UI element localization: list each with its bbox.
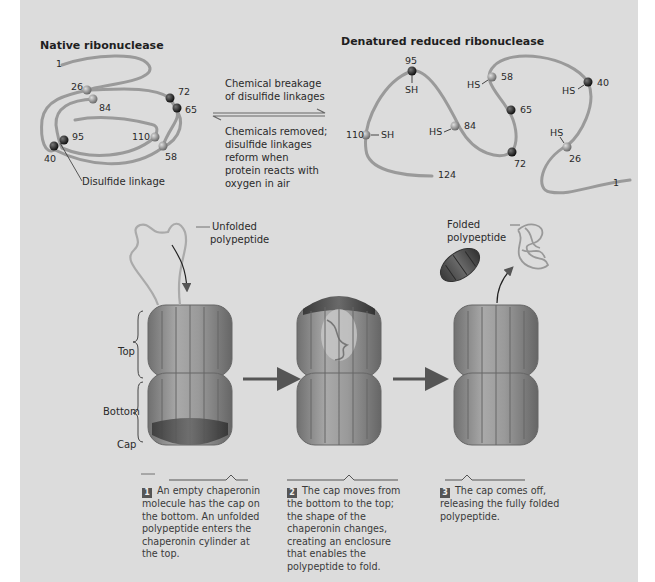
chaperonin-open: [454, 305, 538, 445]
step-text: The cap moves from the bottom to the top…: [287, 485, 400, 572]
reverse-reaction-label: Chemicals removed;: [225, 126, 327, 139]
step-caption-2: 2The cap moves from the bottom to the to…: [287, 485, 409, 574]
denatured-strand: [366, 56, 630, 193]
residue-label: 40: [44, 153, 56, 166]
sh-group-label: HS: [550, 127, 563, 140]
residue-label: 58: [165, 151, 177, 164]
step-text: An empty chaperonin molecule has the cap…: [142, 485, 260, 559]
unfolded-polypeptide-label-2: polypeptide: [210, 234, 269, 247]
forward-reaction-label-1: Chemical breakage: [225, 78, 321, 91]
unfolded-polypeptide-label-1: Unfolded: [212, 221, 257, 234]
residue-label: 40: [597, 77, 609, 90]
residue-label: 95: [405, 55, 417, 68]
exit-arrow: [497, 268, 512, 303]
chaperonin-empty: [148, 305, 232, 445]
residue-label: 1: [56, 58, 62, 71]
native-ribonuclease-title: Native ribonuclease: [40, 40, 164, 53]
residue-label: 84: [464, 120, 476, 133]
folded-polypeptide-label-1: Folded: [447, 219, 480, 232]
forward-reaction-label-2: of disulfide linkages: [225, 91, 325, 104]
step-number-badge: 2: [287, 488, 297, 498]
disulfide-leader-line: [60, 143, 82, 181]
step-number-badge: 1: [142, 488, 152, 498]
residue-label: 1: [613, 177, 619, 190]
residue-label: 95: [72, 131, 84, 144]
reverse-reaction-label: disulfide linkages: [225, 139, 312, 152]
sh-group-label: SH: [405, 84, 418, 97]
reverse-reaction-label: oxygen in air: [225, 178, 290, 191]
residue-label: 58: [501, 71, 513, 84]
step-caption-1: 1An empty chaperonin molecule has the ca…: [142, 485, 264, 561]
folded-polypeptide-label-2: polypeptide: [447, 232, 506, 245]
step-number-badge: 3: [440, 488, 450, 498]
cap-label: Cap: [117, 439, 136, 452]
bottom-label: Bottom: [103, 406, 140, 419]
residue-label: 72: [178, 86, 190, 99]
folded-polypeptide: [518, 225, 548, 269]
sh-group-label: SH: [381, 129, 394, 142]
sh-group-label: HS: [467, 79, 480, 92]
step-caption-3: 3The cap comes off, releasing the fully …: [440, 485, 562, 523]
residue-label: 65: [520, 104, 532, 117]
reverse-reaction-label: reform when: [225, 152, 289, 165]
sh-group-label: HS: [562, 85, 575, 98]
disulfide-linkage-label: Disulfide linkage: [82, 176, 165, 189]
caption-dividers: [169, 475, 525, 480]
residue-label: 124: [438, 169, 456, 182]
step-text: The cap comes off, releasing the fully f…: [440, 485, 559, 522]
residue-label: 26: [71, 81, 83, 94]
reverse-reaction-label: protein reacts with: [225, 165, 319, 178]
top-label: Top: [118, 346, 135, 359]
top-bracket: [133, 311, 143, 378]
sh-group-label: HS: [429, 126, 442, 139]
equilibrium-arrows: [213, 109, 325, 120]
residue-label: 72: [514, 158, 526, 171]
chaperonin-capped: [297, 296, 381, 445]
residue-label: 65: [185, 104, 197, 117]
unfolded-polypeptide: [130, 224, 186, 305]
denatured-ribonuclease-title: Denatured reduced ribonuclease: [341, 36, 544, 49]
residue-label: 84: [99, 102, 111, 115]
residue-label: 26: [569, 153, 581, 166]
residue-label: 110: [346, 129, 364, 142]
residue-label: 110: [132, 131, 150, 144]
